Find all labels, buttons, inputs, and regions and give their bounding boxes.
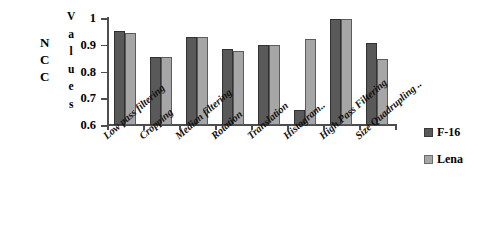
y-tick-mark: [101, 18, 107, 20]
legend-item: F-16: [424, 125, 463, 140]
x-tick-mark: [215, 124, 217, 130]
y-tick-mark: [101, 45, 107, 47]
x-tick-mark: [179, 124, 181, 130]
x-tick-mark: [395, 124, 397, 130]
x-tick-mark: [143, 124, 145, 130]
x-tick-mark: [107, 124, 109, 130]
x-category-label: Low pass filtering: [101, 82, 167, 141]
chart-legend: F-16Lena: [424, 125, 463, 167]
y-tick-mark: [101, 72, 107, 74]
ncc-values-bar-chart: NCC Values 0.60.70.80.91 Low pass filter…: [0, 0, 493, 246]
legend-swatch-icon: [424, 155, 433, 164]
x-tick-mark: [359, 124, 361, 130]
x-tick-mark: [323, 124, 325, 130]
x-tick-mark: [287, 124, 289, 130]
x-axis-category-labels: Low pass filteringCroppingMedian filteri…: [0, 0, 493, 246]
legend-swatch-icon: [424, 128, 433, 137]
legend-item: Lena: [424, 152, 463, 167]
legend-label: F-16: [437, 125, 460, 140]
y-tick-mark: [101, 98, 107, 100]
x-category-label: Size Quadrupling ..: [353, 78, 424, 141]
x-tick-mark: [251, 124, 253, 130]
legend-label: Lena: [437, 152, 463, 167]
